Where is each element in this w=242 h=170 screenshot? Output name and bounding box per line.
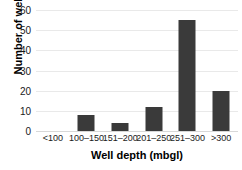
bar-slot: [204, 10, 238, 131]
bar: [179, 20, 196, 131]
bar: [78, 115, 95, 131]
x-axis-tick-label: 201–250: [136, 133, 171, 143]
y-axis-tick-label: 50: [20, 25, 31, 36]
y-axis-tick-label: 60: [20, 5, 31, 16]
x-axis-title: Well depth (mbgl): [36, 149, 238, 161]
y-axis-tick-label: 10: [20, 105, 31, 116]
x-axis-tick-label: >300: [211, 133, 231, 143]
y-axis-tick-label: 20: [20, 85, 31, 96]
bar: [145, 107, 162, 131]
y-axis-tick-label: 0: [25, 126, 31, 137]
bar-slot: [103, 10, 137, 131]
x-axis-tick-label: 100–150: [69, 133, 104, 143]
bar-slot: [36, 10, 70, 131]
bar-slot: [137, 10, 171, 131]
y-axis-tick-label: 40: [20, 45, 31, 56]
bar: [213, 91, 230, 131]
x-axis-tick-label: 151–200: [103, 133, 138, 143]
plot-area: 0102030405060: [36, 10, 238, 131]
gridline: [36, 131, 238, 132]
bar-slot: [171, 10, 205, 131]
bar: [112, 123, 129, 131]
bar-slot: [70, 10, 104, 131]
bar-chart-figure: Number of wells 0102030405060 <100100–15…: [0, 0, 242, 170]
x-axis-tick-label: <100: [43, 133, 63, 143]
x-axis-ticks: <100100–150151–200201–250251–300>300: [36, 133, 238, 147]
y-axis-tick-label: 30: [20, 65, 31, 76]
x-axis-tick-label: 251–300: [170, 133, 205, 143]
bars-layer: [36, 10, 238, 131]
